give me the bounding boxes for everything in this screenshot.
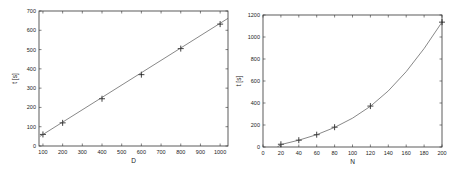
chart-1: 1002003004005006007008009001000010020030… (11, 8, 228, 164)
y-axis-label: t [s] (235, 76, 243, 87)
x-tick-label: 100 (348, 150, 357, 156)
y-tick-label: 500 (27, 47, 36, 53)
x-tick-label: 100 (38, 149, 47, 155)
x-tick-label: 20 (278, 150, 284, 156)
y-tick-label: 100 (27, 124, 36, 130)
x-tick-label: 180 (420, 150, 429, 156)
x-tick-label: 400 (97, 149, 106, 155)
y-tick-label: 600 (27, 27, 36, 33)
fit-line (40, 18, 228, 136)
x-tick-label: 160 (402, 150, 411, 156)
x-tick-label: 900 (196, 149, 205, 155)
y-tick-label: 1000 (248, 34, 260, 40)
x-tick-label: 600 (137, 149, 146, 155)
y-tick-label: 600 (251, 78, 260, 84)
y-tick-label: 300 (27, 85, 36, 91)
charts-canvas: 1002003004005006007008009001000010020030… (0, 0, 457, 171)
x-tick-label: 40 (296, 150, 302, 156)
y-tick-label: 800 (251, 56, 260, 62)
x-axis-label: N (350, 158, 355, 165)
x-tick-label: 0 (261, 150, 264, 156)
y-tick-label: 0 (33, 143, 36, 149)
plot-frame (263, 15, 442, 147)
x-tick-label: 120 (366, 150, 375, 156)
y-tick-label: 400 (27, 66, 36, 72)
y-tick-label: 700 (27, 8, 36, 14)
y-tick-label: 200 (251, 122, 260, 128)
x-tick-label: 500 (117, 149, 126, 155)
x-tick-label: 140 (384, 150, 393, 156)
x-tick-label: 700 (156, 149, 165, 155)
y-tick-label: 400 (251, 100, 260, 106)
fit-line (277, 22, 442, 147)
chart-2: 0204060801001201401601802000200400600800… (235, 12, 447, 165)
x-tick-label: 800 (176, 149, 185, 155)
x-tick-label: 300 (78, 149, 87, 155)
plot-frame (39, 11, 228, 146)
y-tick-label: 1200 (248, 12, 260, 18)
x-tick-label: 60 (314, 150, 320, 156)
x-tick-label: 80 (332, 150, 338, 156)
y-tick-label: 0 (257, 144, 260, 150)
x-tick-label: 200 (58, 149, 67, 155)
x-tick-label: 1000 (214, 149, 226, 155)
x-tick-label: 200 (437, 150, 446, 156)
x-axis-label: D (131, 157, 136, 164)
y-tick-label: 200 (27, 104, 36, 110)
y-axis-label: t [s] (11, 73, 19, 84)
